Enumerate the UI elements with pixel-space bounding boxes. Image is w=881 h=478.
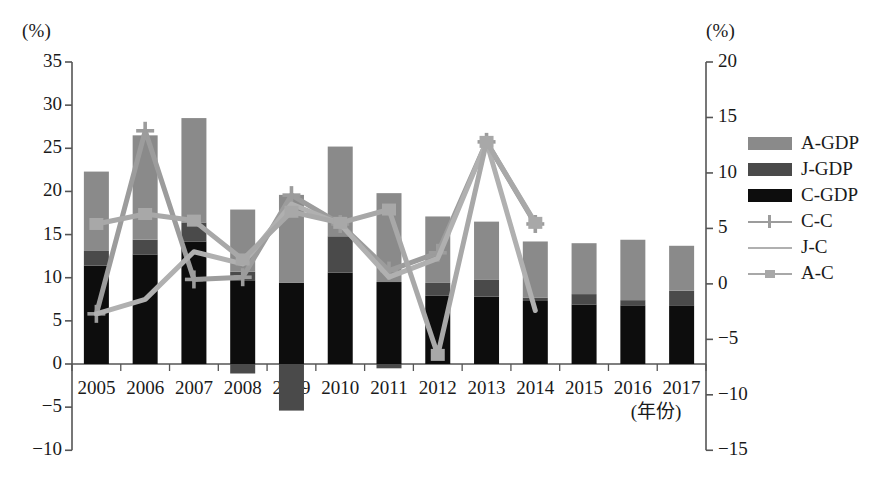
marker-A-C-2014 bbox=[528, 217, 542, 229]
legend-line-icon bbox=[748, 241, 792, 254]
marker-A-C-2011 bbox=[382, 204, 396, 216]
legend-label: A-C bbox=[801, 262, 834, 284]
legend-item-j-c[interactable]: J-C bbox=[748, 234, 859, 260]
bar-J-GDP-2005 bbox=[84, 251, 109, 266]
legend-label: C-C bbox=[801, 210, 833, 232]
bar-J-GDP-2016 bbox=[620, 300, 645, 305]
marker-A-C-2012 bbox=[431, 349, 445, 361]
legend-swatch-icon bbox=[748, 137, 792, 150]
legend-item-a-gdp[interactable]: A-GDP bbox=[748, 130, 859, 156]
legend-label: J-GDP bbox=[801, 158, 853, 180]
bar-J-GDP-2012 bbox=[425, 283, 450, 296]
bar-C-GDP-2008 bbox=[230, 280, 255, 364]
bar-neg-J-GDP-2011 bbox=[377, 364, 402, 368]
legend-item-c-gdp[interactable]: C-GDP bbox=[748, 182, 859, 208]
marker-A-C-2013 bbox=[480, 136, 494, 148]
bar-J-GDP-2014 bbox=[523, 298, 548, 301]
bar-A-GDP-2013 bbox=[474, 222, 499, 280]
legend-swatch-icon bbox=[748, 163, 792, 176]
bar-A-GDP-2015 bbox=[572, 243, 597, 294]
legend-label: A-GDP bbox=[801, 132, 859, 154]
bar-J-GDP-2010 bbox=[328, 236, 353, 272]
marker-A-C-2007 bbox=[187, 215, 201, 227]
legend-item-a-c[interactable]: A-C bbox=[748, 260, 859, 286]
legend-label: C-GDP bbox=[801, 184, 858, 206]
legend-line-icon bbox=[748, 267, 792, 280]
bar-C-GDP-2010 bbox=[328, 273, 353, 364]
bar-neg-J-GDP-2009 bbox=[279, 364, 304, 411]
legend-item-c-c[interactable]: C-C bbox=[748, 208, 859, 234]
bar-A-GDP-2005 bbox=[84, 172, 109, 251]
bar-C-GDP-2016 bbox=[620, 305, 645, 364]
legend-label: J-C bbox=[801, 236, 827, 258]
marker-A-C-2005 bbox=[89, 218, 103, 230]
bar-A-GDP-2007 bbox=[181, 118, 206, 222]
marker-A-C-2006 bbox=[138, 208, 152, 220]
marker-A-C-2008 bbox=[236, 253, 250, 265]
bar-A-GDP-2017 bbox=[669, 246, 694, 291]
legend-line-icon bbox=[748, 215, 792, 228]
line-A-C bbox=[96, 142, 535, 355]
bar-C-GDP-2009 bbox=[279, 283, 304, 364]
bar-C-GDP-2006 bbox=[133, 254, 158, 364]
marker-A-C-2009 bbox=[284, 206, 298, 218]
bar-J-GDP-2017 bbox=[669, 291, 694, 306]
bar-C-GDP-2015 bbox=[572, 304, 597, 364]
bar-J-GDP-2013 bbox=[474, 279, 499, 296]
bar-C-GDP-2017 bbox=[669, 305, 694, 364]
bar-C-GDP-2013 bbox=[474, 297, 499, 364]
bar-J-GDP-2015 bbox=[572, 294, 597, 304]
line-J-C bbox=[96, 142, 535, 314]
chart-root: (%) (%) 35302520151050−5−10 20151050−5−1… bbox=[0, 0, 881, 478]
legend-swatch-icon bbox=[748, 189, 792, 202]
marker-A-C-2010 bbox=[333, 217, 347, 229]
bar-J-GDP-2006 bbox=[133, 240, 158, 255]
chart-legend: A-GDPJ-GDPC-GDPC-CJ-CA-C bbox=[748, 130, 859, 286]
bar-C-GDP-2011 bbox=[377, 282, 402, 364]
legend-item-j-gdp[interactable]: J-GDP bbox=[748, 156, 859, 182]
bar-A-GDP-2016 bbox=[620, 240, 645, 300]
bar-neg-J-GDP-2008 bbox=[230, 364, 255, 373]
